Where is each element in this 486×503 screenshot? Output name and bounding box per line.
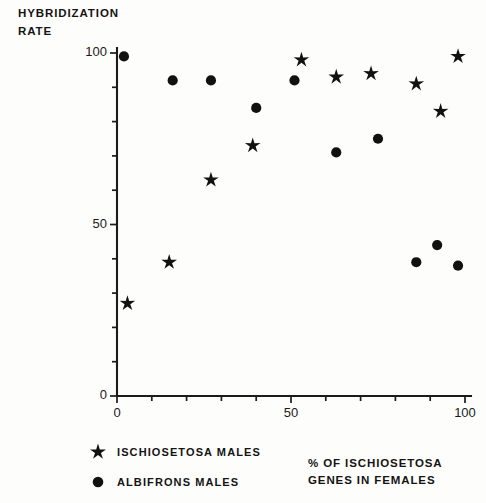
data-point-circle — [289, 75, 299, 85]
data-point-circle — [373, 134, 383, 144]
y-axis-title: HYBRIDIZATION RATE — [18, 4, 119, 40]
scatter-plot-figure: HYBRIDIZATION RATE % OF ISCHIOSETOSA GEN… — [0, 0, 486, 503]
legend-marker-shape — [93, 477, 104, 488]
axes-group — [110, 48, 471, 403]
plot-canvas — [0, 0, 486, 503]
y-tick-label: 0 — [65, 387, 107, 402]
data-point-circle — [119, 51, 129, 61]
data-point-circle — [453, 261, 463, 271]
y-tick-label: 100 — [65, 44, 107, 59]
data-point-circle — [168, 75, 178, 85]
circle-icon — [88, 472, 108, 492]
y-tick-label: 50 — [65, 216, 107, 231]
data-points-group — [119, 48, 466, 310]
x-tick-label: 100 — [445, 405, 485, 420]
x-tick-label: 0 — [97, 405, 137, 420]
data-point-star — [203, 172, 219, 187]
legend-item: ISCHIOSETOSA MALES — [88, 442, 261, 462]
x-axis-title: % OF ISCHIOSETOSA GENES IN FEMALES — [308, 455, 443, 489]
data-point-circle — [411, 257, 421, 267]
legend-item-label: ALBIFRONS MALES — [117, 476, 239, 488]
data-point-star — [161, 254, 177, 269]
data-point-star — [245, 137, 261, 152]
data-point-star — [328, 69, 344, 84]
star-icon — [88, 442, 108, 462]
legend-item: ALBIFRONS MALES — [88, 472, 239, 492]
data-point-star — [120, 295, 136, 310]
data-point-circle — [432, 240, 442, 250]
data-point-circle — [206, 75, 216, 85]
legend-marker-shape — [90, 444, 106, 459]
legend-item-label: ISCHIOSETOSA MALES — [117, 446, 261, 458]
data-point-circle — [331, 147, 341, 157]
data-point-star — [294, 52, 310, 67]
data-point-star — [450, 48, 466, 63]
data-point-star — [433, 103, 449, 118]
data-point-circle — [251, 103, 261, 113]
data-point-star — [363, 65, 379, 80]
x-tick-label: 50 — [271, 405, 311, 420]
data-point-star — [408, 76, 424, 91]
